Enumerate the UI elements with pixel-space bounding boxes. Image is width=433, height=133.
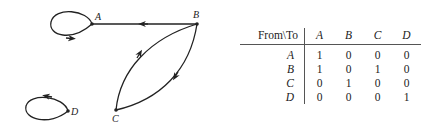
adjacency-matrix: From\To A B C D A 1 0 0 0 B 1 0 1 0 C 0 … [240, 28, 421, 104]
node-label-C: C [112, 113, 119, 124]
matrix-cell: 0 [363, 76, 392, 90]
matrix-row: A 1 0 0 0 [240, 45, 421, 63]
column-header: B [334, 28, 363, 45]
matrix-row: D 0 0 0 1 [240, 90, 421, 104]
column-header: D [392, 28, 421, 45]
matrix-cell: 0 [305, 76, 335, 90]
corner-label: From\To [240, 28, 305, 45]
node-A [90, 22, 94, 26]
matrix-cell: 0 [392, 76, 421, 90]
edge-C-B [116, 24, 197, 110]
matrix-row: C 0 1 0 0 [240, 76, 421, 90]
row-header: C [240, 76, 305, 90]
node-label-D: D [70, 106, 79, 117]
column-header: A [305, 28, 335, 45]
node-C [114, 108, 118, 112]
matrix-cell: 1 [392, 90, 421, 104]
matrix-cell: 1 [334, 76, 363, 90]
matrix-cell: 0 [392, 45, 421, 63]
node-D [66, 109, 70, 113]
edge-A-A [51, 12, 92, 36]
matrix-header-row: From\To A B C D [240, 28, 421, 45]
matrix-cell: 0 [334, 90, 363, 104]
node-label-B: B [193, 9, 199, 20]
row-header: D [240, 90, 305, 104]
row-header: A [240, 45, 305, 63]
matrix-row: B 1 0 1 0 [240, 62, 421, 76]
node-label-A: A [94, 11, 102, 22]
matrix-cell: 0 [392, 62, 421, 76]
matrix-cell: 0 [305, 90, 335, 104]
matrix-cell: 0 [363, 45, 392, 63]
row-header: B [240, 62, 305, 76]
matrix-cell: 1 [305, 62, 335, 76]
edge-D-D [26, 97, 68, 119]
matrix-cell: 0 [363, 90, 392, 104]
matrix-cell: 0 [334, 45, 363, 63]
matrix-cell: 1 [305, 45, 335, 63]
matrix-cell: 0 [334, 62, 363, 76]
column-header: C [363, 28, 392, 45]
node-B [195, 22, 199, 26]
directed-graph: A B C D [0, 0, 220, 133]
matrix-cell: 1 [363, 62, 392, 76]
edge-B-C [116, 24, 197, 110]
